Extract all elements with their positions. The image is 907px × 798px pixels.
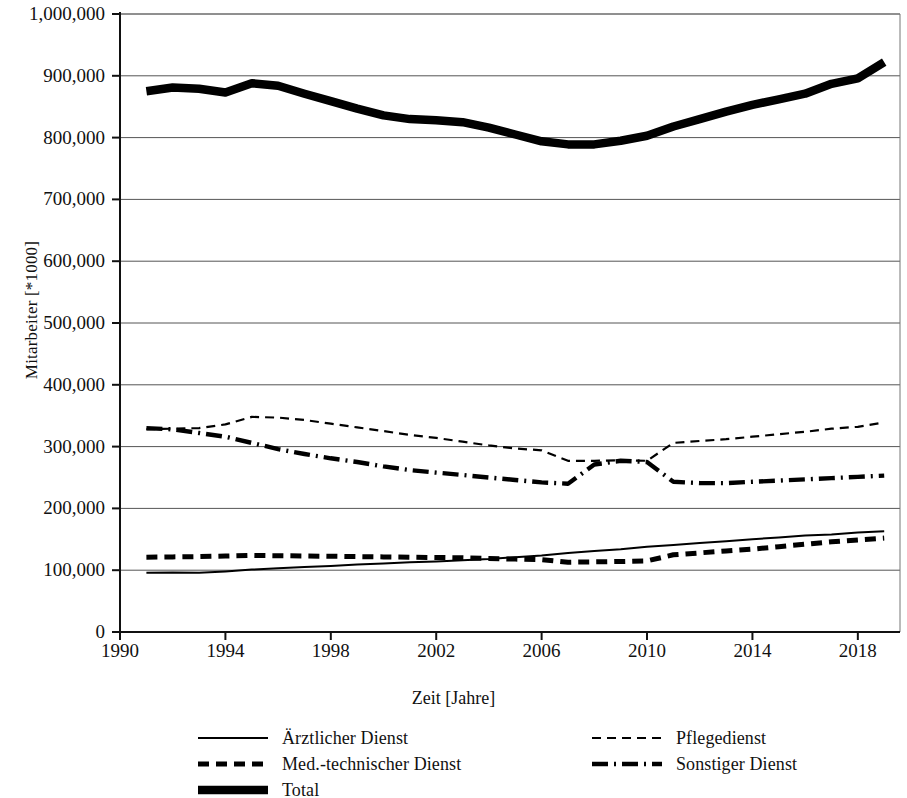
legend-line-sample	[590, 754, 664, 774]
series-line	[146, 531, 884, 572]
legend-line-sample	[196, 780, 270, 798]
chart-figure: Mitarbeiter [*1000] 0100,000200,000300,0…	[0, 0, 907, 798]
series-line	[146, 417, 884, 461]
legend-label: Med.-technischer Dienst	[282, 754, 461, 775]
legend-line-sample	[590, 728, 664, 748]
chart-legend: Ärztlicher DienstMed.-technischer Dienst…	[196, 726, 896, 798]
legend-label: Total	[282, 780, 319, 798]
plot-area	[0, 0, 907, 798]
legend-item: Total	[196, 778, 319, 798]
legend-label: Ärztlicher Dienst	[282, 728, 408, 749]
legend-label: Sonstiger Dienst	[676, 754, 797, 775]
legend-item: Pflegedienst	[590, 726, 766, 750]
series-line	[146, 538, 884, 562]
series-line	[146, 62, 884, 144]
legend-line-sample	[196, 754, 270, 774]
legend-item: Ärztlicher Dienst	[196, 726, 408, 750]
series-line	[146, 428, 884, 484]
legend-item: Sonstiger Dienst	[590, 752, 797, 776]
legend-line-sample	[196, 728, 270, 748]
legend-item: Med.-technischer Dienst	[196, 752, 461, 776]
legend-label: Pflegedienst	[676, 728, 766, 749]
